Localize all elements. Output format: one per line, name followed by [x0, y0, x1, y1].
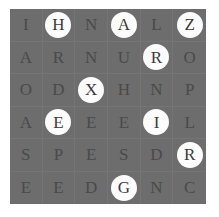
- grid-cell-r3c1[interactable]: O: [10, 74, 43, 107]
- cell-letter: G: [118, 179, 130, 196]
- cell-letter: X: [85, 81, 97, 98]
- grid-cell-r4c2[interactable]: E: [43, 107, 76, 140]
- grid-cell-r5c6[interactable]: R: [173, 139, 206, 172]
- cell-letter: C: [184, 179, 195, 196]
- cell-letter: N: [85, 49, 97, 66]
- grid-cell-r1c5[interactable]: L: [141, 9, 174, 42]
- cell-letter: S: [119, 146, 128, 163]
- cell-letter: R: [53, 49, 64, 66]
- grid-cell-r5c5[interactable]: D: [141, 139, 174, 172]
- grid-cell-r1c6[interactable]: Z: [173, 9, 206, 42]
- grid-cell-r4c6[interactable]: L: [173, 107, 206, 140]
- cell-letter: O: [184, 49, 196, 66]
- cell-letter: S: [21, 146, 30, 163]
- cell-letter: R: [184, 146, 195, 163]
- cell-letter: N: [150, 81, 162, 98]
- grid-cell-r6c6[interactable]: C: [173, 172, 206, 205]
- cell-letter: H: [52, 16, 64, 33]
- grid-cell-r4c4[interactable]: E: [108, 107, 141, 140]
- cell-letter: R: [151, 49, 162, 66]
- grid-cell-r5c3[interactable]: E: [75, 139, 108, 172]
- grid-cell-r6c4[interactable]: G: [108, 172, 141, 205]
- cell-letter: E: [21, 179, 31, 196]
- grid-cell-r3c3[interactable]: X: [75, 74, 108, 107]
- grid-cell-r2c6[interactable]: O: [173, 42, 206, 75]
- cell-letter: I: [23, 16, 29, 33]
- grid-cell-r3c6[interactable]: P: [173, 74, 206, 107]
- cell-letter: E: [86, 146, 96, 163]
- grid-cell-r4c3[interactable]: E: [75, 107, 108, 140]
- grid-cell-r5c1[interactable]: S: [10, 139, 43, 172]
- letter-grid: IHNALZARNUROODXHNPAEEEILSPESDREEDGNC: [10, 9, 206, 204]
- cell-letter: E: [119, 114, 129, 131]
- cell-letter: D: [85, 179, 97, 196]
- grid-cell-r2c4[interactable]: U: [108, 42, 141, 75]
- grid-cell-r2c5[interactable]: R: [141, 42, 174, 75]
- grid-cell-r4c1[interactable]: A: [10, 107, 43, 140]
- cell-letter: A: [20, 114, 32, 131]
- cell-letter: E: [86, 114, 96, 131]
- cell-letter: P: [185, 81, 194, 98]
- grid-cell-r4c5[interactable]: I: [141, 107, 174, 140]
- grid-cell-r5c4[interactable]: S: [108, 139, 141, 172]
- cell-letter: A: [20, 49, 32, 66]
- grid-cell-r6c5[interactable]: N: [141, 172, 174, 205]
- cell-letter: E: [53, 179, 63, 196]
- grid-cell-r1c1[interactable]: I: [10, 9, 43, 42]
- cell-letter: U: [118, 49, 130, 66]
- cell-letter: I: [154, 114, 160, 131]
- grid-cell-r3c5[interactable]: N: [141, 74, 174, 107]
- grid-cell-r3c2[interactable]: D: [43, 74, 76, 107]
- cell-letter: N: [150, 179, 162, 196]
- cell-letter: O: [20, 81, 32, 98]
- grid-cell-r3c4[interactable]: H: [108, 74, 141, 107]
- cell-letter: D: [150, 146, 162, 163]
- cell-letter: L: [151, 16, 161, 33]
- cell-letter: E: [53, 114, 63, 131]
- cell-letter: P: [54, 146, 63, 163]
- cell-letter: Z: [184, 16, 194, 33]
- cell-letter: N: [85, 16, 97, 33]
- grid-cell-r6c1[interactable]: E: [10, 172, 43, 205]
- grid-cell-r2c1[interactable]: A: [10, 42, 43, 75]
- grid-cell-r2c3[interactable]: N: [75, 42, 108, 75]
- cell-letter: L: [184, 114, 194, 131]
- cell-letter: A: [118, 16, 130, 33]
- cell-letter: D: [52, 81, 64, 98]
- grid-cell-r1c2[interactable]: H: [43, 9, 76, 42]
- grid-cell-r6c2[interactable]: E: [43, 172, 76, 205]
- cell-letter: H: [118, 81, 130, 98]
- grid-cell-r2c2[interactable]: R: [43, 42, 76, 75]
- grid-cell-r6c3[interactable]: D: [75, 172, 108, 205]
- grid-cell-r1c4[interactable]: A: [108, 9, 141, 42]
- grid-cell-r1c3[interactable]: N: [75, 9, 108, 42]
- letter-grid-puzzle: IHNALZARNUROODXHNPAEEEILSPESDREEDGNC: [0, 0, 219, 217]
- grid-cell-r5c2[interactable]: P: [43, 139, 76, 172]
